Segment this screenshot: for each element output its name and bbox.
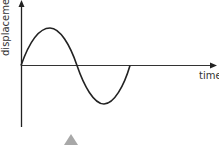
x-axis-label: time bbox=[199, 70, 219, 81]
wave-diagram: displacement time bbox=[0, 0, 219, 150]
triangle-marker-icon bbox=[64, 134, 78, 145]
y-axis-arrow-icon bbox=[19, 0, 25, 7]
x-axis-arrow-icon bbox=[210, 63, 217, 69]
y-axis-label: displacement bbox=[0, 0, 11, 56]
